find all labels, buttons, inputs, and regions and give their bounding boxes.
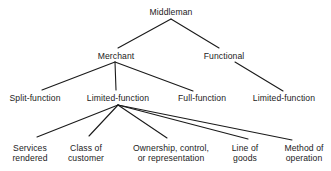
node-limited-function-functional: Limited-function [253,93,315,103]
node-functional: Functional [204,51,245,61]
edge-merchant-full-function [115,62,193,91]
edge-limited-services-rendered [37,105,118,137]
edge-middleman-merchant [118,19,171,48]
node-label: Merchant [98,51,135,61]
node-label: Middleman [150,7,193,17]
edge-merchant-split-function [42,62,115,90]
node-label-line2: rendered [12,153,47,163]
node-label: Split-function [9,93,60,103]
node-label-line2: customer [68,153,104,163]
node-ownership-control-representation: Ownership, control, or representation [133,143,209,163]
node-label-line2: goods [232,153,259,163]
node-full-function: Full-function [178,93,226,103]
edge-middleman-functional [171,19,219,48]
node-label: Limited-function [253,93,315,103]
node-label-line1: Class of [68,143,104,153]
edge-merchant-limited-function [115,62,116,90]
node-label-line1: Ownership, control, [133,143,209,153]
node-label: Functional [204,51,245,61]
node-label-line2: operation [284,153,323,163]
node-limited-function-merchant: Limited-function [87,93,149,103]
edge-limited-class-of-customer [89,105,118,136]
node-split-function: Split-function [9,93,60,103]
node-label-line1: Line of [232,143,259,153]
node-class-of-customer: Class of customer [68,143,104,163]
node-middleman: Middleman [150,7,193,17]
node-label-line1: Services [12,143,47,153]
node-merchant: Merchant [98,51,135,61]
node-label-line1: Method of [284,143,323,153]
node-method-of-operation: Method of operation [284,143,323,163]
node-services-rendered: Services rendered [12,143,47,163]
edge-functional-limited-function [235,62,283,91]
edge-limited-line-of-goods [118,105,248,139]
node-label: Limited-function [87,93,149,103]
node-line-of-goods: Line of goods [232,143,259,163]
node-label: Full-function [178,93,226,103]
node-label-line2: or representation [133,153,209,163]
